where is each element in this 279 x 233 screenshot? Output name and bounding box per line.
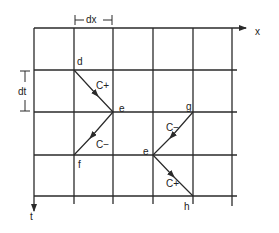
grid-horizontal-lines (34, 28, 246, 196)
c-plus-characteristic-e-h (153, 155, 193, 196)
node-label-f: f (78, 159, 81, 170)
c-plus-label: C+ (166, 178, 179, 189)
node-label-h: h (184, 201, 190, 212)
characteristics-grid-diagram: x t dx dt C+ C− C− C+ d e f g e h (0, 0, 279, 233)
node-label-e: e (119, 103, 125, 114)
node-label-g: g (186, 101, 192, 112)
c-minus-label: C− (96, 139, 109, 150)
c-minus-characteristic-g-e (153, 112, 193, 155)
grid-vertical-lines (34, 28, 232, 211)
c-minus-label: C− (166, 122, 179, 133)
dt-dimension-marker: dt (18, 71, 30, 111)
c-plus-label: C+ (96, 80, 109, 91)
node-label-e: e (143, 146, 149, 157)
dx-dimension-marker: dx (75, 14, 112, 25)
node-label-d: d (77, 56, 83, 67)
x-axis-label: x (255, 26, 260, 37)
dx-label: dx (86, 14, 97, 25)
c-plus-characteristic-d-e (74, 70, 113, 112)
dt-label: dt (18, 86, 27, 97)
t-axis-label: t (30, 211, 33, 222)
